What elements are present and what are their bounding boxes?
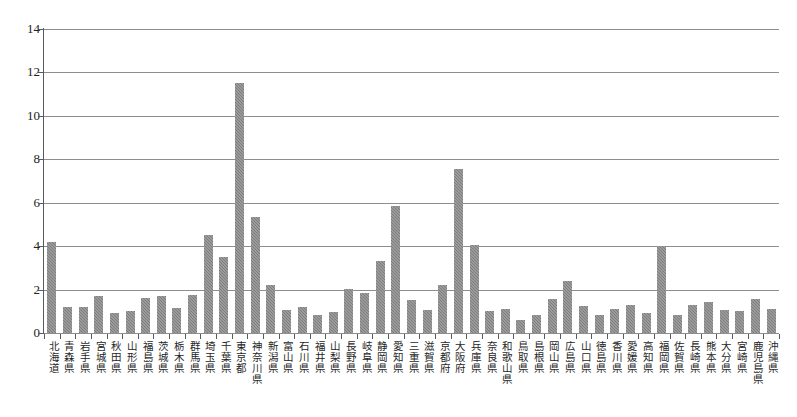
x-axis-tick-mark [185, 334, 186, 339]
x-axis-category-label: 茨城県 [155, 341, 168, 374]
x-axis-tick-mark [263, 334, 264, 339]
x-axis-category-label: 兵庫県 [468, 341, 481, 374]
x-axis-tick-mark [279, 334, 280, 339]
bar [548, 299, 557, 333]
bar [235, 83, 244, 333]
bar [626, 305, 635, 333]
top-ghost-text [110, 0, 710, 7]
x-axis-category-label: 北海道 [45, 341, 58, 374]
bar [438, 285, 447, 333]
x-axis-tick-mark [75, 334, 76, 339]
x-axis-tick-mark [576, 334, 577, 339]
bar [329, 312, 338, 333]
x-axis-category-label: 群馬県 [186, 341, 199, 374]
x-axis-tick-mark [404, 334, 405, 339]
x-axis-category-label: 福島県 [139, 341, 152, 374]
gridline [44, 116, 779, 117]
x-axis-tick-mark [435, 334, 436, 339]
x-axis-tick-mark [529, 334, 530, 339]
x-axis-category-label: 埼玉県 [202, 341, 215, 374]
x-axis-tick-mark [200, 334, 201, 339]
bar [47, 242, 56, 333]
bar [735, 311, 744, 333]
x-axis-category-label: 静岡県 [374, 341, 387, 374]
x-axis-category-label: 富山県 [280, 341, 293, 374]
x-axis-tick-mark [607, 334, 608, 339]
x-axis-tick-mark [591, 334, 592, 339]
x-axis-category-label: 秋田県 [108, 341, 121, 374]
gridline [44, 290, 779, 291]
bar [454, 169, 463, 333]
bar [485, 311, 494, 333]
gridline [44, 159, 779, 160]
bar [344, 289, 353, 334]
x-axis-category-label: 徳島県 [593, 341, 606, 374]
x-axis-category-label: 福岡県 [655, 341, 668, 374]
bar [579, 306, 588, 333]
x-axis-tick-mark [232, 334, 233, 339]
x-axis-tick-mark [701, 334, 702, 339]
x-axis-category-label: 栃木県 [170, 341, 183, 374]
bar [516, 320, 525, 333]
bar [282, 310, 291, 333]
x-axis-tick-mark [654, 334, 655, 339]
bar [313, 315, 322, 333]
bottom-ghost-text [60, 408, 680, 416]
bar [673, 315, 682, 333]
x-axis-tick-mark [372, 334, 373, 339]
bar [172, 308, 181, 333]
bar [407, 300, 416, 333]
y-axis-tick-label: 14 [10, 22, 40, 35]
x-axis-tick-mark [466, 334, 467, 339]
x-axis-category-label: 大分県 [718, 341, 731, 374]
x-axis-tick-mark [670, 334, 671, 339]
x-axis-category-label: 千葉県 [217, 341, 230, 374]
bar [94, 296, 103, 333]
bar [391, 206, 400, 333]
x-axis-tick-mark [498, 334, 499, 339]
x-axis-tick-mark [685, 334, 686, 339]
x-axis-category-label: 愛媛県 [624, 341, 637, 374]
x-axis-category-label: 熊本県 [702, 341, 715, 374]
x-axis-tick-mark [153, 334, 154, 339]
bar [642, 313, 651, 333]
y-axis-tick-mark [38, 290, 44, 291]
bar [110, 313, 119, 333]
x-axis-category-label: 岩手県 [77, 341, 90, 374]
bar [219, 257, 228, 333]
bar [688, 305, 697, 333]
x-axis-category-label: 山口県 [577, 341, 590, 374]
bar [470, 245, 479, 333]
bar [720, 310, 729, 333]
y-axis-tick-mark [38, 116, 44, 117]
gridline [44, 246, 779, 247]
x-axis-category-label: 宮崎県 [733, 341, 746, 374]
x-axis-tick-mark [247, 334, 248, 339]
x-axis-tick-mark [44, 334, 45, 339]
bar [204, 235, 213, 333]
y-axis-tick-mark [38, 246, 44, 247]
y-axis-tick-labels: 14121086420 [4, 0, 40, 417]
plot-area [44, 29, 779, 333]
x-axis-tick-mark [60, 334, 61, 339]
bar [376, 261, 385, 333]
y-axis-tick-mark [38, 203, 44, 204]
gridline [44, 29, 779, 30]
y-axis-tick-mark [38, 72, 44, 73]
x-axis-category-label: 鳥取県 [514, 341, 527, 374]
bar [126, 311, 135, 333]
bar [360, 293, 369, 333]
bar [751, 299, 760, 333]
y-axis-tick-label: 6 [10, 196, 40, 209]
x-axis-tick-mark [107, 334, 108, 339]
bar [657, 246, 666, 333]
x-axis-tick-mark [763, 334, 764, 339]
bar [501, 309, 510, 333]
x-axis-category-label: 佐賀県 [671, 341, 684, 374]
bar [188, 295, 197, 333]
x-axis-tick-mark [419, 334, 420, 339]
x-axis-category-label: 広島県 [561, 341, 574, 374]
x-axis-category-label: 岡山県 [546, 341, 559, 374]
bar [298, 307, 307, 333]
y-axis-tick-label: 4 [10, 239, 40, 252]
